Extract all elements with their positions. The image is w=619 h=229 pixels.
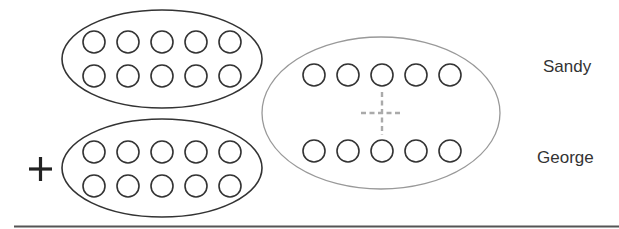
label-sandy: Sandy [543,57,591,77]
circle-rows-top-left [83,31,241,87]
crosshair-icon [361,92,403,135]
group-bottom-left [62,119,262,217]
plus-icon [29,157,52,181]
ellipse-bottom-left [62,119,262,217]
diagram-canvas [0,0,619,229]
ellipse-top-left [62,10,262,108]
group-top-left [62,10,262,108]
group-right [262,37,500,189]
circle-rows-bottom-left [83,141,241,197]
label-george: George [537,148,594,168]
